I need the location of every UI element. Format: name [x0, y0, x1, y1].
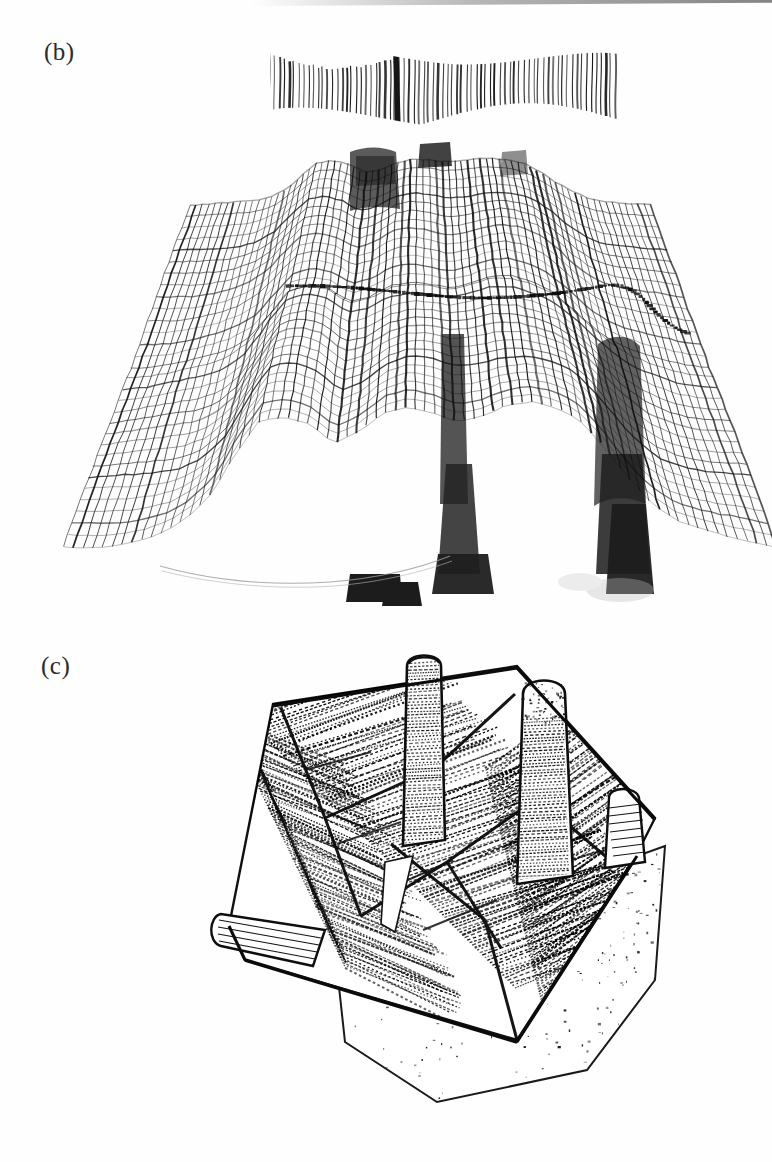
figure-panel-c: [185, 648, 685, 1128]
scan-edge-artifact: [250, 0, 772, 6]
wireframe-surface-plot-b: [150, 34, 690, 614]
hatched-surface-plot-c: [185, 648, 685, 1128]
panel-label-c: (c): [41, 652, 70, 680]
edge-on-hatch-band: [269, 23, 621, 137]
mesh-surface: [64, 158, 772, 548]
ink-saturation-zones: [346, 142, 654, 606]
panel-label-b: (b): [44, 38, 75, 66]
figure-page: (b): [0, 0, 772, 1162]
figure-panel-b: [150, 34, 690, 614]
column-protrusion-2: [514, 681, 577, 885]
